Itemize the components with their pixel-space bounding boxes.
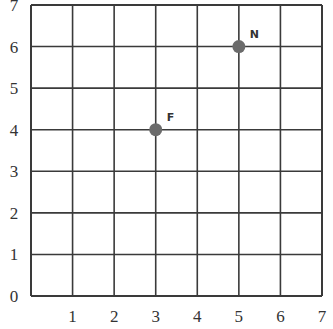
y-tick-label: 2 bbox=[10, 204, 19, 223]
point-f-marker bbox=[149, 123, 162, 136]
y-tick-label: 5 bbox=[10, 79, 19, 98]
y-tick-label: 1 bbox=[10, 245, 19, 264]
x-tick-label: 7 bbox=[318, 307, 327, 326]
x-tick-label: 1 bbox=[68, 307, 77, 326]
data-points: FN bbox=[149, 28, 259, 137]
x-axis-ticks: 1234567 bbox=[68, 307, 326, 326]
point-f-label: F bbox=[167, 111, 175, 124]
x-tick-label: 2 bbox=[110, 307, 119, 326]
x-tick-label: 3 bbox=[151, 307, 160, 326]
coordinate-grid: 01234567 1234567 FN bbox=[0, 0, 333, 329]
point-n-label: N bbox=[250, 28, 259, 41]
x-tick-label: 5 bbox=[235, 307, 244, 326]
point-n-marker bbox=[232, 40, 245, 53]
y-tick-label: 7 bbox=[10, 0, 19, 15]
y-tick-label: 0 bbox=[10, 287, 19, 306]
y-tick-label: 6 bbox=[10, 38, 19, 57]
y-tick-label: 4 bbox=[10, 121, 19, 140]
x-tick-label: 4 bbox=[193, 307, 202, 326]
y-axis-ticks: 01234567 bbox=[10, 0, 19, 306]
grid-lines bbox=[31, 5, 322, 296]
y-tick-label: 3 bbox=[10, 162, 19, 181]
x-tick-label: 6 bbox=[276, 307, 285, 326]
